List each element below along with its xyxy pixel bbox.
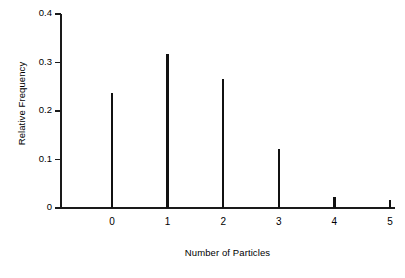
- y-axis-tick: [55, 207, 61, 208]
- x-axis-tick-label: 4: [319, 216, 349, 227]
- x-axis-tick-label: 5: [375, 216, 405, 227]
- y-axis-tick: [55, 159, 61, 160]
- chart-figure: 0.40.30.20.10 012345 Relative Frequency …: [0, 0, 405, 278]
- bar-5: [389, 200, 391, 208]
- plot-area: 0.40.30.20.10 012345: [0, 0, 405, 278]
- bar-1: [166, 54, 168, 208]
- y-axis-tick-label: 0.4: [12, 7, 52, 18]
- y-axis-tick: [55, 13, 61, 14]
- y-axis-tick-label: 0: [12, 201, 52, 212]
- x-axis-tick-label: 2: [208, 216, 238, 227]
- bar-0: [111, 93, 113, 208]
- x-axis-title: Number of Particles: [60, 247, 395, 258]
- x-axis-tick-label: 3: [264, 216, 294, 227]
- bar-3: [278, 149, 280, 208]
- bar-4: [333, 197, 335, 208]
- x-axis-tick-label: 1: [153, 216, 183, 227]
- bar-2: [222, 79, 224, 208]
- y-axis-title: Relative Frequency: [16, 39, 27, 169]
- x-axis-tick-label: 0: [97, 216, 127, 227]
- y-axis-tick: [55, 62, 61, 63]
- y-axis-tick: [55, 110, 61, 111]
